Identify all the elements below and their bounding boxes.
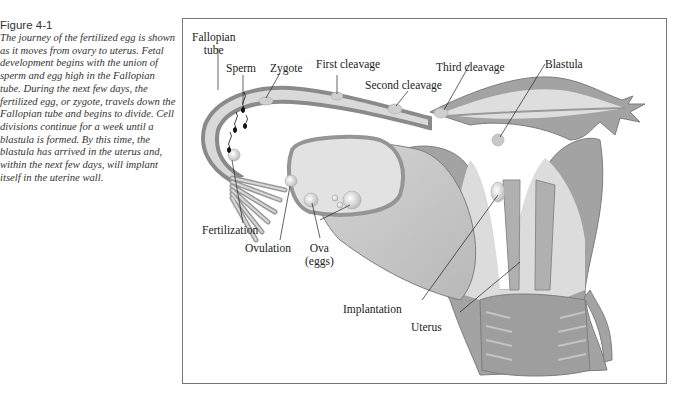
label-second-cleavage: Second cleavage <box>365 79 442 92</box>
label-blastula: Blastula <box>545 58 583 71</box>
label-fallopian-tube: Fallopian tube <box>192 31 235 57</box>
label-fallopian-line2: tube <box>192 44 235 57</box>
label-fertilization: Fertilization <box>202 224 258 237</box>
label-ova-line2: (eggs) <box>305 255 334 268</box>
label-fallopian-line1: Fallopian <box>192 31 235 44</box>
label-third-cleavage: Third cleavage <box>436 61 505 74</box>
label-ovulation: Ovulation <box>245 242 291 255</box>
label-ova: Ova (eggs) <box>305 242 334 268</box>
label-implantation: Implantation <box>343 303 402 316</box>
label-uterus: Uterus <box>411 321 442 334</box>
label-first-cleavage: First cleavage <box>316 58 380 71</box>
label-ova-line1: Ova <box>305 242 334 255</box>
label-zygote: Zygote <box>270 62 303 75</box>
uterus-body <box>430 77 645 140</box>
label-sperm: Sperm <box>226 62 256 75</box>
